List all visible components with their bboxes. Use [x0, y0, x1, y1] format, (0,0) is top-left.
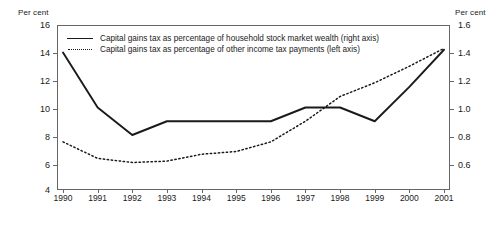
tick-mark-x-1990 [63, 190, 64, 193]
x-tick-1995: 1995 [219, 193, 253, 203]
tick-mark-x-1992 [132, 190, 133, 193]
y-left-tick-2: 12 [28, 76, 50, 86]
tick-mark-right-1.2 [450, 81, 454, 82]
x-tick-1992: 1992 [115, 193, 149, 203]
tick-mark-right-1.0 [450, 109, 454, 110]
capital-gains-tax-line-chart: Per cent Per cent 16 14 12 10 8 6 4 1.6 … [0, 0, 502, 225]
tick-mark-x-1997 [305, 190, 306, 193]
x-tick-1997: 1997 [288, 193, 322, 203]
y-left-tick-0: 16 [28, 20, 50, 30]
tick-mark-right-0.8 [450, 137, 454, 138]
x-tick-1990: 1990 [46, 193, 80, 203]
left-axis-unit-label: Per cent [18, 8, 49, 17]
x-tick-1996: 1996 [254, 193, 288, 203]
legend-solid-line-icon [67, 34, 93, 43]
y-left-tick-5: 6 [28, 160, 50, 170]
x-tick-2001: 2001 [427, 193, 461, 203]
tick-mark-right-1.4 [450, 53, 454, 54]
legend-label-other-income-tax: Capital gains tax as percentage of other… [100, 44, 360, 55]
y-right-tick-5: 0.6 [458, 160, 471, 170]
x-tick-1998: 1998 [323, 193, 357, 203]
tick-mark-x-1999 [375, 190, 376, 193]
legend-item-stock-market-wealth: Capital gains tax as percentage of house… [67, 33, 379, 44]
y-right-tick-0: 1.6 [458, 20, 471, 30]
y-left-tick-3: 10 [28, 104, 50, 114]
tick-mark-x-1994 [202, 190, 203, 193]
y-right-tick-1: 1.4 [458, 48, 471, 58]
tick-mark-x-1996 [271, 190, 272, 193]
y-left-tick-1: 14 [28, 48, 50, 58]
tick-mark-x-1995 [236, 190, 237, 193]
legend-item-other-income-tax: Capital gains tax as percentage of other… [67, 44, 379, 55]
x-tick-1991: 1991 [81, 193, 115, 203]
x-tick-1994: 1994 [185, 193, 219, 203]
x-tick-1999: 1999 [358, 193, 392, 203]
tick-mark-x-2000 [409, 190, 410, 193]
y-right-tick-3: 1.0 [458, 104, 471, 114]
x-tick-1993: 1993 [150, 193, 184, 203]
x-tick-2000: 2000 [392, 193, 426, 203]
chart-legend: Capital gains tax as percentage of house… [67, 33, 379, 55]
y-right-tick-4: 0.8 [458, 132, 471, 142]
tick-mark-right-0.6 [450, 165, 454, 166]
tick-mark-x-1991 [98, 190, 99, 193]
series-line-other-income-tax [63, 48, 444, 162]
right-axis-unit-label: Per cent [455, 8, 486, 17]
legend-dotted-line-icon [67, 45, 93, 54]
y-left-tick-4: 8 [28, 132, 50, 142]
tick-mark-x-1993 [167, 190, 168, 193]
tick-mark-x-2001 [444, 190, 445, 193]
y-right-tick-2: 1.2 [458, 76, 471, 86]
tick-mark-x-1998 [340, 190, 341, 193]
legend-label-stock-market-wealth: Capital gains tax as percentage of house… [100, 33, 379, 44]
series-line-stock-market-wealth [63, 50, 444, 135]
